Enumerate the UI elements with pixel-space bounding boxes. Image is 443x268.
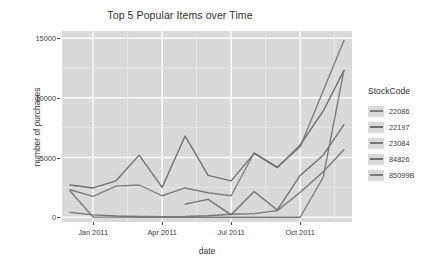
legend: StockCode 2208622197230848482685099B — [368, 86, 443, 183]
x-tick-mark — [93, 222, 94, 225]
y-tick-mark — [57, 158, 60, 159]
legend-item[interactable]: 22197 — [368, 119, 443, 135]
x-tick-label: Oct 2011 — [285, 228, 314, 237]
y-tick-label: 0 — [52, 213, 56, 222]
legend-key-swatch — [368, 122, 384, 133]
y-tick-mark — [57, 98, 60, 99]
legend-label: 84826 — [389, 155, 410, 164]
x-tick-label: Jan 2011 — [78, 228, 108, 237]
legend-key-swatch — [368, 138, 384, 149]
chart-root: Top 5 Popular Items over Time number of … — [0, 0, 443, 268]
legend-key-swatch — [368, 106, 384, 117]
legend-label: 22086 — [389, 107, 410, 116]
legend-item[interactable]: 22086 — [368, 103, 443, 119]
legend-item[interactable]: 84826 — [368, 151, 443, 167]
legend-item[interactable]: 23084 — [368, 135, 443, 151]
legend-label: 23084 — [389, 139, 410, 148]
plot-panel — [62, 31, 352, 222]
legend-key-swatch — [368, 170, 384, 181]
y-axis-ticks: 050001000015000 — [0, 31, 56, 222]
chart-title: Top 5 Popular Items over Time — [0, 9, 360, 21]
y-tick-label: 10000 — [35, 93, 56, 102]
legend-title: StockCode — [368, 86, 443, 96]
x-tick-label: Apr 2011 — [147, 228, 176, 237]
x-tick-mark — [162, 222, 163, 225]
legend-label: 85099B — [389, 171, 414, 180]
y-tick-label: 15000 — [35, 34, 56, 43]
y-tick-mark — [57, 217, 60, 218]
legend-item[interactable]: 85099B — [368, 167, 443, 183]
series-lines — [70, 41, 344, 218]
legend-label: 22197 — [389, 123, 410, 132]
x-axis-ticks: Jan 2011Apr 2011Jul 2011Oct 2011 — [62, 222, 352, 242]
y-tick-mark — [57, 38, 60, 39]
legend-key-swatch — [368, 154, 384, 165]
x-tick-mark — [231, 222, 232, 225]
x-tick-mark — [300, 222, 301, 225]
x-tick-label: Jul 2011 — [217, 228, 244, 237]
legend-items: 2208622197230848482685099B — [368, 103, 443, 183]
y-tick-label: 5000 — [40, 153, 56, 162]
plot-area — [62, 31, 352, 222]
x-axis-title: date — [62, 246, 352, 256]
